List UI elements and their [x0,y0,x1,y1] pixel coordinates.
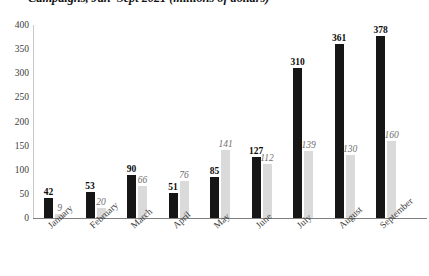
bar-value-label-primary: 361 [329,33,349,43]
bar-value-label-primary: 310 [288,57,308,67]
bar-group: 85141 [210,25,232,218]
bar-group: 9066 [127,25,149,218]
y-tick-0: 0 [0,213,29,223]
y-tick-350: 350 [0,44,29,54]
bar-value-label-secondary: 141 [216,139,236,149]
bar-value-label-secondary: 130 [340,144,360,154]
bar-secondary[interactable] [221,150,230,218]
bar-group: 5320 [86,25,108,218]
bar-value-label-primary: 53 [80,181,100,191]
bar-primary[interactable] [169,193,178,218]
y-tick-300: 300 [0,68,29,78]
bar-group: 429 [44,25,66,218]
bar-group: 378160 [376,25,398,218]
y-tick-150: 150 [0,141,29,151]
bar-primary[interactable] [376,36,385,218]
bar-group: 310139 [293,25,315,218]
bar-secondary[interactable] [263,164,272,218]
bar-value-label-primary: 90 [122,164,142,174]
bar-value-label-secondary: 160 [382,130,402,140]
bar-value-label-primary: 378 [371,25,391,35]
bar-value-label-secondary: 139 [299,140,319,150]
bar-chart: Campaigns, Jan–Sept 2021 (millions of do… [0,0,429,276]
bar-group: 127112 [252,25,274,218]
y-tick-250: 250 [0,92,29,102]
y-tick-100: 100 [0,165,29,175]
bar-value-label-secondary: 76 [174,170,194,180]
bar-group: 5176 [169,25,191,218]
bar-value-label-secondary: 66 [133,175,153,185]
plot-area: 4295320906651768514112711231013936113037… [33,25,425,218]
bar-group: 361130 [335,25,357,218]
bar-primary[interactable] [335,44,344,218]
bar-secondary[interactable] [304,151,313,218]
bar-value-label-secondary: 112 [257,153,277,163]
bar-value-label-primary: 42 [39,187,59,197]
chart-title: Campaigns, Jan–Sept 2021 (millions of do… [28,0,428,6]
y-tick-200: 200 [0,117,29,127]
bar-primary[interactable] [252,157,261,218]
y-tick-50: 50 [0,189,29,199]
y-tick-400: 400 [0,20,29,30]
bar-primary[interactable] [210,177,219,218]
